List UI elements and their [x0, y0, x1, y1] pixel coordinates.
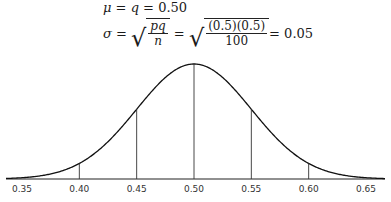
x-tick-label: 0.60 — [299, 184, 319, 194]
x-tick-label: 0.35 — [12, 184, 32, 194]
normal-curve — [6, 64, 385, 179]
x-tick-label: 0.45 — [127, 184, 147, 194]
x-tick-label: 0.65 — [356, 184, 376, 194]
x-tick-label: 0.50 — [184, 184, 204, 194]
x-tick-label: 0.55 — [241, 184, 261, 194]
x-tick-label: 0.40 — [69, 184, 89, 194]
normal-curve-chart: 0.350.400.450.500.550.600.65 — [0, 0, 391, 202]
